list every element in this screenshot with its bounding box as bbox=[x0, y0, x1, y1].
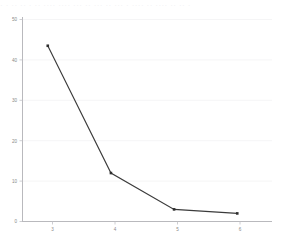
gridlines bbox=[22, 20, 272, 182]
data-point-4 bbox=[110, 172, 113, 175]
series-markers bbox=[46, 44, 238, 214]
data-point-3 bbox=[46, 44, 49, 47]
x-tick-label-6: 6 bbox=[239, 227, 242, 232]
x-axis: 3 4 5 6 bbox=[22, 222, 272, 233]
series-line bbox=[48, 46, 237, 214]
data-point-5 bbox=[173, 208, 176, 211]
x-tick-label-4: 4 bbox=[114, 227, 117, 232]
y-axis: 50 40 30 20 10 0 bbox=[12, 17, 23, 224]
y-tick-label-40: 40 bbox=[12, 58, 18, 63]
y-tick-label-30: 30 bbox=[12, 98, 18, 103]
y-tick-label-20: 20 bbox=[12, 139, 18, 144]
chart-container: · · ·· ·· · ·· ···· ···· ··· ·· ··· ·· ·… bbox=[0, 0, 281, 241]
y-tick-label-0: 0 bbox=[14, 219, 17, 224]
plot-area: 50 40 30 20 10 0 3 4 5 6 bbox=[0, 0, 281, 241]
x-tick-label-3: 3 bbox=[51, 227, 54, 232]
y-tick-label-10: 10 bbox=[12, 179, 18, 184]
data-series bbox=[46, 44, 238, 214]
y-tick-label-50: 50 bbox=[12, 17, 18, 22]
line-chart-svg: 50 40 30 20 10 0 3 4 5 6 bbox=[0, 0, 281, 241]
x-tick-label-5: 5 bbox=[176, 227, 179, 232]
data-point-6 bbox=[236, 212, 239, 215]
